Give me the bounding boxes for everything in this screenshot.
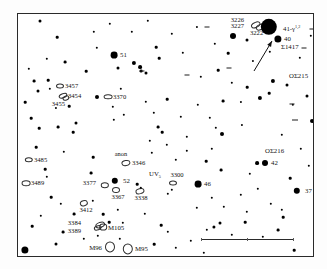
star-marker [37, 90, 40, 93]
galaxy-marker-g3377 [101, 182, 109, 188]
object-label-ngc3367: 3367 [111, 194, 124, 201]
scale-tick [201, 238, 202, 241]
object-label-ngc3377: 3377 [83, 180, 96, 187]
star-marker [195, 181, 202, 188]
star-marker [117, 67, 120, 70]
star-marker [145, 72, 148, 75]
star-marker [75, 122, 78, 125]
star-marker [136, 183, 139, 186]
star-marker [255, 161, 259, 165]
star-marker [44, 168, 47, 171]
star-marker [306, 95, 309, 98]
star-marker [31, 225, 34, 228]
star-marker [160, 224, 163, 227]
star-marker [155, 46, 158, 49]
object-label-ngc3455: 3455 [52, 101, 65, 108]
double-star-bar [185, 75, 190, 76]
object-label-m105: M105 [108, 225, 124, 232]
star-marker [293, 249, 296, 252]
star-marker [95, 95, 99, 99]
star-marker [73, 213, 76, 216]
object-label-ngc3346: 3346 [132, 160, 145, 167]
star-marker [220, 169, 223, 172]
object-label-ngc3485: 3485 [34, 157, 47, 164]
star-marker [282, 216, 285, 219]
star-marker [50, 196, 53, 199]
star-marker [268, 92, 271, 95]
double-star-bar [227, 68, 232, 69]
object-label-osigma216: OΣ216 [265, 148, 284, 155]
star-marker [90, 172, 93, 175]
object-label-uvleo: UV5 [149, 171, 161, 180]
star-marker [35, 146, 38, 149]
star-marker [38, 127, 41, 130]
star-marker [246, 39, 249, 42]
star-marker [230, 33, 236, 39]
object-label-ngc3222: 3222 [250, 30, 263, 37]
star-marker [47, 79, 50, 82]
scale-tick [293, 238, 294, 241]
star-marker [227, 52, 230, 55]
object-label-ngc3384: 3384 [68, 220, 81, 227]
star-marker [85, 70, 88, 73]
object-label-star46: 46 [204, 181, 211, 188]
object-label-ngc3300: 3300 [170, 172, 183, 179]
double-star-bar [140, 71, 145, 72]
scale-tick [247, 238, 248, 241]
object-label-ngc3454: 3454 [68, 93, 81, 100]
galaxy-marker-gM105 [99, 224, 107, 231]
star-marker [111, 52, 118, 59]
star-marker [161, 131, 164, 134]
star-chart: 32263227322241-γ1,240Σ1417OΣ215513457345… [0, 0, 327, 269]
double-star-bar [205, 27, 210, 28]
object-label-ngc3227: 3227 [231, 23, 244, 30]
object-label-osigma215: OΣ215 [289, 73, 308, 80]
star-marker [158, 57, 161, 60]
object-label-sigma1417: Σ1417 [281, 44, 299, 51]
star-marker [68, 105, 71, 108]
double-star-bar [310, 29, 315, 30]
galaxy-marker-g3489 [22, 180, 31, 186]
star-marker [310, 119, 314, 123]
star-marker [166, 98, 169, 101]
star-marker [62, 231, 65, 234]
star-marker [220, 132, 224, 136]
star-marker [33, 80, 36, 83]
object-label-ngc3389: 3389 [68, 228, 81, 235]
object-label-ngc3457: 3457 [65, 83, 78, 90]
object-label-star42: 42 [271, 160, 278, 167]
object-label-star52: 52 [123, 178, 130, 185]
double-star-bar [302, 48, 307, 49]
star-marker [57, 126, 60, 129]
star-marker [205, 160, 208, 163]
star-marker [24, 101, 27, 104]
star-marker [217, 69, 220, 72]
star-marker [92, 156, 95, 159]
chart-frame: 32263227322241-γ1,240Σ1417OΣ215513457345… [17, 13, 314, 257]
star-marker [153, 243, 156, 246]
object-label-ngc3412: 3412 [79, 207, 92, 214]
object-label-m95: M95 [135, 246, 148, 253]
object-label-star41gamma: 41-γ1,2 [283, 25, 300, 33]
star-marker [219, 222, 222, 225]
star-marker [30, 117, 33, 120]
star-marker [246, 86, 249, 89]
object-label-anon: anon [115, 151, 127, 157]
star-marker [55, 243, 58, 246]
double-star-bar [292, 120, 298, 121]
star-marker [244, 221, 247, 224]
star-marker [39, 20, 42, 23]
object-label-star40: 40 [284, 36, 291, 43]
star-marker [138, 65, 142, 69]
star-marker [56, 36, 59, 39]
star-marker [64, 61, 67, 64]
star-marker [72, 131, 75, 134]
star-marker [289, 177, 292, 180]
star-marker [262, 160, 268, 166]
star-marker [277, 229, 280, 232]
object-label-ngc3338: 3338 [134, 195, 147, 202]
object-label-ngc3489: 3489 [31, 180, 44, 187]
star-marker [102, 213, 105, 216]
object-label-ngc3370: 3370 [113, 94, 126, 101]
star-marker [286, 84, 289, 87]
